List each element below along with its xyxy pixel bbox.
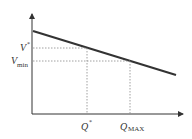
diagram-canvas: V * V min Q * Q MAX xyxy=(0,0,192,139)
q-star-label: Q * xyxy=(81,119,92,132)
svg-text:Q: Q xyxy=(120,121,128,132)
svg-text:min: min xyxy=(17,61,28,69)
svg-text:*: * xyxy=(27,41,30,47)
v-star-label: V * xyxy=(20,41,30,53)
svg-text:MAX: MAX xyxy=(128,125,144,133)
svg-text:*: * xyxy=(89,119,92,125)
svg-text:Q: Q xyxy=(81,121,89,132)
demand-line xyxy=(33,31,176,75)
q-max-label: Q MAX xyxy=(120,121,144,133)
v-min-label: V min xyxy=(11,55,28,69)
